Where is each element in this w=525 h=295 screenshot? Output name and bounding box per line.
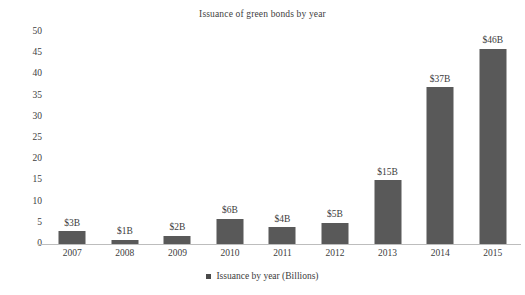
bar-group: $37B [414, 32, 467, 244]
bar[interactable] [164, 236, 191, 244]
bar-value-label: $37B [430, 75, 451, 85]
bar[interactable] [216, 219, 243, 244]
bar[interactable] [427, 87, 454, 244]
y-axis-tick-label: 10 [0, 197, 42, 207]
y-axis-tick-label: 50 [0, 27, 42, 37]
bar-group: $6B [204, 32, 257, 244]
y-axis-tick-label: 5 [0, 218, 42, 228]
x-axis-tick-label: 2010 [204, 248, 257, 258]
x-axis-tick-label: 2012 [309, 248, 362, 258]
bar-value-label: $15B [377, 168, 398, 178]
x-axis-tick-label: 2013 [361, 248, 414, 258]
x-axis-tick-label: 2014 [414, 248, 467, 258]
bar-value-label: $3B [64, 219, 80, 229]
bar-group: $15B [361, 32, 414, 244]
y-axis-tick-label: 30 [0, 112, 42, 122]
bar-value-label: $1B [117, 227, 133, 237]
y-axis-tick-label: 15 [0, 176, 42, 186]
y-axis-tick-label: 0 [0, 239, 42, 249]
x-axis-tick-label: 2007 [46, 248, 99, 258]
chart-title: Issuance of green bonds by year [0, 9, 525, 19]
y-axis-tick-label: 40 [0, 70, 42, 80]
bar-value-label: $2B [169, 223, 185, 233]
bar-value-label: $5B [327, 210, 343, 220]
y-axis-tick-label: 45 [0, 48, 42, 58]
bars-layer: $3B$1B$2B$6B$4B$5B$15B$37B$46B [46, 32, 519, 244]
bar-value-label: $46B [482, 36, 503, 46]
x-axis-tick-label: 2008 [99, 248, 152, 258]
bar[interactable] [374, 180, 401, 244]
x-axis-tick-label: 2011 [256, 248, 309, 258]
bar[interactable] [111, 240, 138, 244]
x-axis-tick-label: 2015 [466, 248, 519, 258]
x-axis-baseline [38, 244, 521, 245]
x-axis: 200720082009201020112012201320142015 [46, 248, 519, 264]
y-axis: 05101520253035404550 [0, 32, 42, 244]
bar[interactable] [269, 227, 296, 244]
bar-group: $2B [151, 32, 204, 244]
bar-group: $46B [466, 32, 519, 244]
bar-group: $5B [309, 32, 362, 244]
legend-label: Issuance by year (Billions) [216, 271, 318, 281]
bar-group: $1B [99, 32, 152, 244]
bar[interactable] [322, 223, 349, 244]
y-axis-tick-label: 25 [0, 133, 42, 143]
x-axis-tick-label: 2009 [151, 248, 204, 258]
bar-value-label: $4B [275, 215, 291, 225]
bar-value-label: $6B [222, 206, 238, 216]
y-axis-tick-label: 20 [0, 154, 42, 164]
legend-square-marker-icon [206, 274, 211, 279]
bar[interactable] [59, 231, 86, 244]
chart-legend: Issuance by year (Billions) [0, 271, 525, 281]
y-axis-tick-label: 35 [0, 91, 42, 101]
bar-group: $4B [256, 32, 309, 244]
chart-container: Issuance of green bonds by year 05101520… [0, 0, 525, 295]
bar[interactable] [479, 49, 506, 244]
bar-group: $3B [46, 32, 99, 244]
